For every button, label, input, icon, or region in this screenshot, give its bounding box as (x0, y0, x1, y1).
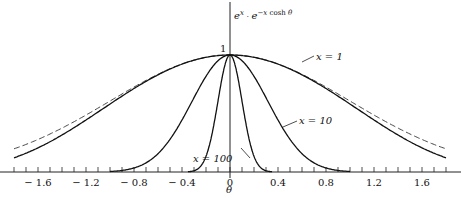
x-tick-label: 0.4 (270, 177, 286, 188)
x-tick-label: 0.8 (318, 177, 334, 188)
annot-line-x10 (283, 121, 297, 127)
x-tick-label: − 0.8 (120, 177, 147, 188)
annot-x10: x = 10 (299, 115, 333, 126)
x-tick-label: − 1.6 (24, 177, 51, 188)
x-axis-label: θ (226, 184, 232, 195)
x-tick-label: 1.2 (366, 177, 382, 188)
peak-label: 1 (220, 43, 226, 54)
x-tick-label: 1.6 (414, 177, 430, 188)
annot-x1: x = 1 (316, 51, 343, 62)
annot-line-x100 (241, 148, 250, 158)
annot-x100: x = 100 (193, 153, 233, 164)
annot-line-x1 (302, 56, 314, 62)
x-tick-label: − 1.2 (72, 177, 99, 188)
y-axis-label: ex · e−x cosh θ (234, 9, 293, 21)
x-tick-label: − 0.4 (168, 177, 195, 188)
chart: − 1.6− 1.2− 0.8− 0.400.40.81.21.6 ex · e… (0, 0, 461, 198)
x-axis-ticks (14, 167, 446, 172)
